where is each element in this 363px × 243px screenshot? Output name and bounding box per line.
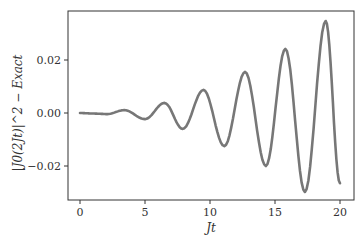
x-axis: 05101520: [77, 200, 348, 219]
y-tick-label: 0.02: [37, 54, 62, 67]
x-tick-label: 20: [333, 206, 347, 219]
x-tick-label: 0: [77, 206, 84, 219]
y-tick-label: 0.00: [37, 107, 62, 120]
x-tick-label: 10: [203, 206, 217, 219]
y-axis-label: |J0(2Jt)|^2 − Exact: [11, 54, 25, 171]
x-axis-label: Jt: [203, 221, 216, 235]
y-axis: −0.020.000.02: [27, 54, 68, 173]
y-tick-label: −0.02: [27, 160, 61, 173]
data-line: [80, 21, 340, 192]
x-tick-label: 15: [268, 206, 282, 219]
chart: 05101520 −0.020.000.02 Jt |J0(2Jt)|^2 − …: [0, 0, 363, 243]
x-tick-label: 5: [142, 206, 149, 219]
